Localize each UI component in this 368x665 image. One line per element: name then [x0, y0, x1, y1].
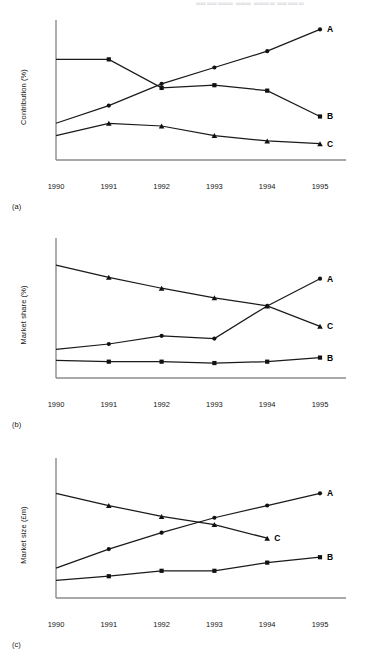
- x-tick-1992-b: 1992: [153, 400, 170, 409]
- series-label-b-a: B: [327, 111, 333, 121]
- data-point-a-1992: [160, 531, 164, 535]
- series-label-a-b: A: [327, 274, 333, 284]
- x-axis-ticks-b: 199019911992199319941995: [40, 400, 352, 412]
- x-tick-1992-a: 1992: [153, 182, 170, 191]
- series-label-c-c: C: [274, 533, 280, 543]
- x-tick-1993-a: 1993: [206, 182, 223, 191]
- y-axis-label-c-text: Market size (£m): [19, 506, 28, 563]
- x-tick-1990-c: 1990: [48, 620, 65, 629]
- x-tick-1991-c: 1991: [100, 620, 117, 629]
- panel-label-a: (a): [12, 202, 21, 211]
- plot-svg-b: ABC: [40, 236, 352, 394]
- data-point-b-1994: [265, 89, 269, 93]
- data-point-a-1994: [265, 49, 269, 53]
- series-c-a: [53, 121, 323, 146]
- data-point-b-1993: [212, 569, 216, 573]
- series-line-a: [56, 493, 320, 568]
- x-tick-1995-b: 1995: [312, 400, 329, 409]
- data-point-b-1993: [212, 83, 216, 87]
- series-line-c: [56, 265, 320, 326]
- data-point-a-1995: [318, 491, 322, 495]
- series-b-a: [54, 57, 322, 118]
- x-tick-1994-c: 1994: [259, 620, 276, 629]
- data-point-b-1991: [107, 360, 111, 364]
- plot-svg-c: ABC: [40, 456, 352, 614]
- series-label-b-c: B: [327, 552, 333, 562]
- series-label-b-b: B: [327, 353, 333, 363]
- running-head: ▭▭▭▭▭▭▭ ▭▭▭ ▭▭▭▭ ▭▭▭▭▭: [196, 0, 364, 6]
- plot-area-a: ABC: [40, 18, 352, 176]
- series-b-b: [54, 356, 322, 366]
- x-tick-1990-b: 1990: [48, 400, 65, 409]
- series-label-c-a: C: [327, 139, 333, 149]
- y-axis-label-b-text: Market share (%): [19, 285, 28, 344]
- data-point-a-1995: [318, 277, 322, 281]
- data-point-a-1995: [318, 27, 322, 31]
- data-point-b-1995: [318, 356, 322, 360]
- x-axis-ticks-a: 199019911992199319941995: [40, 182, 352, 194]
- plot-area-b: ABC: [40, 236, 352, 394]
- series-a-a: [54, 27, 322, 125]
- y-axis-label-c: Market size (£m): [16, 456, 30, 614]
- x-tick-1991-a: 1991: [100, 182, 117, 191]
- data-point-b-1991: [107, 574, 111, 578]
- series-line-b: [56, 59, 320, 116]
- y-axis-label-a-text: Contribution (%): [19, 69, 28, 125]
- series-line-a: [56, 279, 320, 350]
- data-point-a-1992: [160, 82, 164, 86]
- x-tick-1995-a: 1995: [312, 182, 329, 191]
- data-point-b-1994: [265, 561, 269, 565]
- data-point-a-1991: [107, 104, 111, 108]
- plot-area-c: ABC: [40, 456, 352, 614]
- x-tick-1993-b: 1993: [206, 400, 223, 409]
- chart-panel-b: Market share (%) ABC 1990199119921993199…: [0, 228, 368, 446]
- data-point-a-1993: [212, 65, 216, 69]
- data-point-b-1991: [107, 57, 111, 61]
- data-point-b-1994: [265, 360, 269, 364]
- series-line-a: [56, 29, 320, 123]
- data-point-b-1992: [160, 86, 164, 90]
- chart-panel-c: Market size (£m) ABC 1990199119921993199…: [0, 448, 368, 665]
- data-point-a-1991: [107, 547, 111, 551]
- panel-label-c: (c): [12, 640, 21, 649]
- series-a-c: [54, 491, 322, 570]
- series-label-a-a: A: [327, 24, 333, 34]
- data-point-a-1993: [212, 336, 216, 340]
- data-point-a-1992: [160, 334, 164, 338]
- data-point-c-1995: [317, 324, 323, 329]
- x-tick-1992-c: 1992: [153, 620, 170, 629]
- series-line-b: [56, 358, 320, 363]
- data-point-b-1992: [160, 360, 164, 364]
- series-b-c: [54, 555, 322, 582]
- panel-label-b: (b): [12, 420, 21, 429]
- x-axis-ticks-c: 199019911992199319941995: [40, 620, 352, 632]
- data-point-a-1994: [265, 503, 269, 507]
- line-chart-c: ABC: [40, 456, 352, 622]
- data-point-b-1993: [212, 361, 216, 365]
- x-tick-1993-c: 1993: [206, 620, 223, 629]
- line-chart-a: ABC: [40, 18, 352, 184]
- x-tick-1995-c: 1995: [312, 620, 329, 629]
- series-a-b: [54, 277, 322, 352]
- x-tick-1991-b: 1991: [100, 400, 117, 409]
- series-label-c-b: C: [327, 321, 333, 331]
- figure-page: ▭▭▭▭▭▭▭ ▭▭▭ ▭▭▭▭ ▭▭▭▭▭ Contribution (%) …: [0, 0, 368, 665]
- x-tick-1994-b: 1994: [259, 400, 276, 409]
- data-point-b-1995: [318, 555, 322, 559]
- series-line-b: [56, 557, 320, 580]
- x-tick-1994-a: 1994: [259, 182, 276, 191]
- x-tick-1990-a: 1990: [48, 182, 65, 191]
- series-label-a-c: A: [327, 488, 333, 498]
- y-axis-label-b: Market share (%): [16, 236, 30, 394]
- plot-svg-a: ABC: [40, 18, 352, 176]
- chart-panel-a: Contribution (%) ABC 1990199119921993199…: [0, 10, 368, 228]
- series-line-c: [56, 123, 320, 143]
- data-point-a-1993: [212, 516, 216, 520]
- series-c-b: [53, 263, 323, 329]
- data-point-b-1992: [160, 569, 164, 573]
- data-point-b-1995: [318, 114, 322, 118]
- line-chart-b: ABC: [40, 236, 352, 402]
- y-axis-label-a: Contribution (%): [16, 18, 30, 176]
- data-point-a-1991: [107, 342, 111, 346]
